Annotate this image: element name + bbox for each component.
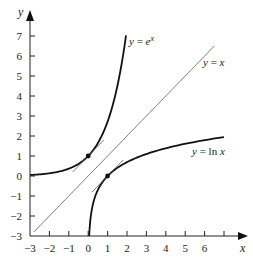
x-axis-arrow-icon — [238, 232, 248, 240]
y-axis-arrow-icon — [26, 10, 34, 21]
x-axis-label: x — [239, 241, 246, 255]
curve-exp — [30, 35, 126, 175]
y-ticks: −3−2−101234567 — [10, 30, 35, 242]
plot-area — [30, 35, 224, 235]
y-tick-label: 5 — [17, 70, 23, 82]
x-tick-label: 1 — [105, 242, 111, 254]
x-tick-label: 0 — [85, 242, 91, 254]
x-tick-label: 6 — [202, 242, 208, 254]
y-tick-label: 4 — [17, 90, 23, 102]
y-tick-label: 1 — [17, 150, 23, 162]
y-tick-label: 3 — [17, 110, 23, 122]
function-graph: −3−2−10123456 −3−2−101234567 x y y = ex … — [0, 0, 253, 267]
point-marker — [86, 154, 91, 159]
x-tick-label: −3 — [24, 242, 36, 254]
label-ln: y = ln x — [191, 145, 225, 157]
point-marker — [105, 174, 110, 179]
y-tick-label: 6 — [17, 50, 23, 62]
x-tick-label: −1 — [63, 242, 75, 254]
x-tick-label: 5 — [182, 242, 188, 254]
curve-identity — [34, 46, 214, 232]
y-tick-label: 0 — [17, 170, 23, 182]
y-tick-label: 2 — [17, 130, 23, 142]
x-tick-label: 4 — [163, 242, 169, 254]
y-tick-label: −2 — [10, 210, 22, 222]
y-tick-label: 7 — [17, 30, 23, 42]
x-tick-label: −2 — [44, 242, 56, 254]
x-tick-label: 3 — [144, 242, 150, 254]
y-axis-label: y — [17, 5, 24, 19]
label-identity: y = x — [202, 56, 225, 68]
x-tick-label: 2 — [124, 242, 130, 254]
y-tick-label: −3 — [10, 230, 22, 242]
label-exp: y = ex — [128, 34, 155, 47]
x-ticks: −3−2−10123456 — [24, 231, 224, 254]
y-tick-label: −1 — [10, 190, 22, 202]
